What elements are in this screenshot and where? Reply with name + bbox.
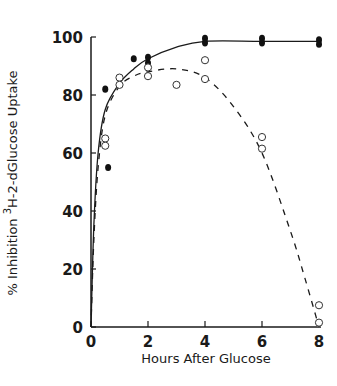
open-circle-marker: [201, 57, 208, 64]
open-circle-marker: [144, 73, 151, 80]
y-tick-label: 80: [62, 87, 83, 105]
y-axis-title-suffix: H-2-dGlucose Uptake: [5, 70, 20, 208]
x-tick-label: 0: [86, 333, 96, 351]
y-tick-label: 0: [73, 319, 83, 337]
chart: 02040608010002468 Hours After Glucose % …: [0, 0, 337, 386]
y-tick-label: 40: [62, 203, 83, 221]
filled-circle-marker: [316, 41, 322, 48]
y-tick-label: 60: [62, 145, 83, 163]
tick-labels: 02040608010002468: [52, 29, 325, 351]
open-circle-marker: [102, 135, 109, 142]
open-circle-marker: [201, 75, 208, 82]
data-points: [102, 35, 323, 326]
x-tick-label: 4: [200, 333, 210, 351]
y-tick-label: 100: [52, 29, 83, 47]
open-circle-marker: [173, 81, 180, 88]
x-tick-label: 8: [314, 333, 324, 351]
open-circle-marker: [258, 133, 265, 140]
y-axis-title: % Inhibition 3H-2-dGlucose Uptake: [2, 70, 20, 295]
filled-circle-marker: [259, 39, 265, 46]
open-circle-marker: [315, 319, 322, 326]
filled-circle-marker: [202, 39, 208, 46]
open-circle-marker: [144, 64, 151, 71]
y-tick-label: 20: [62, 261, 83, 279]
open-circle-marker: [116, 81, 123, 88]
x-axis-title: Hours After Glucose: [141, 351, 270, 366]
open-circle-marker: [315, 302, 322, 309]
filled-circle-marker: [102, 86, 108, 93]
dashed-fit-line: [91, 69, 319, 327]
x-tick-label: 6: [257, 333, 267, 351]
y-axis-title-prefix: % Inhibition: [5, 214, 20, 295]
filled-circle-marker: [105, 164, 111, 171]
fit-lines: [91, 41, 319, 327]
open-circle-marker: [258, 145, 265, 152]
open-circle-marker: [116, 74, 123, 81]
x-tick-label: 2: [143, 333, 153, 351]
filled-circle-marker: [131, 55, 137, 62]
open-circle-marker: [102, 142, 109, 149]
solid-fit-line: [91, 41, 319, 327]
